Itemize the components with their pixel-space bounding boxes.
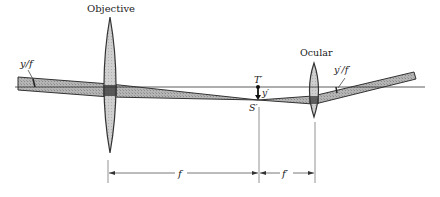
output-angle-leader [338, 78, 345, 88]
image-top-label: T′ [254, 74, 263, 85]
arrowhead-left-icon [109, 171, 115, 175]
converging-beam [110, 84, 258, 100]
focal-length-ocular-label: f′ [281, 168, 289, 179]
ocular-lens [310, 63, 319, 117]
ocular-beam-overlap [309, 96, 319, 104]
objective-label: Objective [87, 3, 135, 14]
telescope-diagram: Objective Ocular y/f y′/f′ T′ y′ S′ f f′ [0, 0, 440, 197]
output-angle-label: y′/f′ [333, 64, 351, 75]
image-height-label: y′ [261, 88, 269, 98]
arrowhead-right-icon [252, 171, 258, 175]
output-angle-arc [336, 87, 337, 93]
arrowhead-down-icon [255, 95, 261, 100]
outgoing-beam [313, 72, 416, 104]
arrowhead-right-icon [308, 171, 314, 175]
ocular-label: Ocular [300, 47, 333, 58]
input-angle-label: y/f [19, 58, 35, 69]
focal-length-objective-label: f [177, 168, 184, 179]
arrowhead-left-icon [260, 171, 266, 175]
image-point-label: S′ [249, 102, 259, 113]
